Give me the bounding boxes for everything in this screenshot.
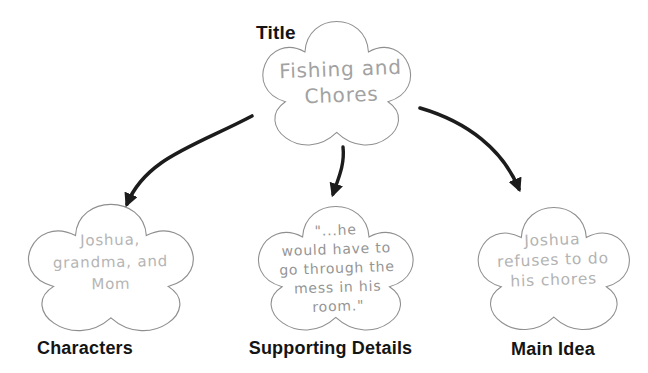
arrow-title-to-supporting-details xyxy=(333,147,343,194)
main-idea-cloud-text: Joshua refuses to do his chores xyxy=(476,227,630,292)
handwritten-line: Joshua, xyxy=(32,228,187,253)
title-cloud-text: Fishing and Chores xyxy=(265,53,417,110)
main-idea-label: Main Idea xyxy=(494,339,612,360)
handwritten-line: grandma, and xyxy=(33,250,188,275)
handwritten-line: Mom xyxy=(33,272,188,297)
characters-cloud-text: Joshua, grandma, and Mom xyxy=(32,228,188,297)
title-label: Title xyxy=(256,22,296,44)
characters-label: Characters xyxy=(25,338,145,359)
arrow-title-to-main-idea xyxy=(420,108,519,189)
handwritten-line: Chores xyxy=(266,79,417,110)
arrow-title-to-characters xyxy=(127,116,252,204)
supporting-details-cloud-text: "...he would have to go through the mess… xyxy=(254,218,419,319)
story-map-diagram: Title Characters Supporting Details Main… xyxy=(0,0,648,373)
supporting-details-label: Supporting Details xyxy=(243,338,418,359)
handwritten-line: Fishing and xyxy=(265,53,416,84)
